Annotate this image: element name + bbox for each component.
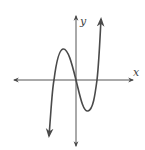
x-axis-label: x: [133, 66, 140, 79]
y-axis-label: y: [79, 15, 87, 28]
cubic-curve: [49, 19, 101, 136]
cubic-function-graph: y x: [0, 0, 145, 150]
